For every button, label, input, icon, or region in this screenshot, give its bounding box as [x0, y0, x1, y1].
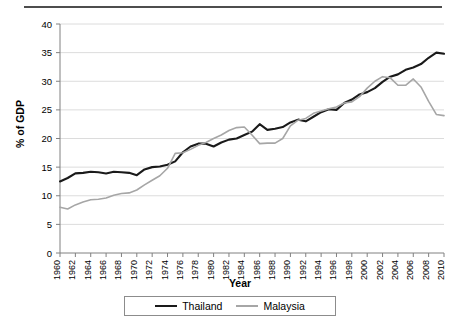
line-chart-svg: 0510152025303540 19601962196419661968197… — [0, 0, 460, 323]
legend-label-thailand: Thailand — [182, 301, 222, 312]
chart-legend: Thailand Malaysia — [124, 296, 336, 316]
legend-line-swatch-thailand — [155, 305, 177, 307]
x-axis-title: Year — [40, 277, 440, 289]
y-axis-tick-label: 40 — [41, 19, 52, 30]
x-axis-ticks-group: 1960196219641966196819701972197419761978… — [52, 253, 446, 280]
y-axis-tick-label: 35 — [41, 47, 52, 58]
legend-item-thailand: Thailand — [155, 301, 222, 312]
plot-area-wrapper: 0510152025303540 19601962196419661968197… — [0, 0, 460, 323]
series-line-thailand — [60, 53, 444, 182]
y-axis-tick-label: 25 — [41, 104, 52, 115]
series-line-malaysia — [60, 77, 444, 209]
y-axis-title: % of GDP — [14, 84, 26, 164]
legend-item-malaysia: Malaysia — [236, 301, 304, 312]
y-axis-tick-label: 5 — [47, 219, 52, 230]
y-axis-ticks-group: 0510152025303540 — [41, 19, 60, 259]
legend-line-swatch-malaysia — [236, 305, 258, 307]
y-axis-tick-label: 0 — [47, 248, 52, 259]
chart-figure: 0510152025303540 19601962196419661968197… — [0, 0, 460, 323]
y-axis-tick-label: 20 — [41, 133, 52, 144]
y-axis-tick-label: 30 — [41, 76, 52, 87]
legend-label-malaysia: Malaysia — [263, 301, 304, 312]
y-axis-tick-label: 10 — [41, 190, 52, 201]
y-axis-tick-label: 15 — [41, 162, 52, 173]
data-series-group — [60, 53, 444, 209]
